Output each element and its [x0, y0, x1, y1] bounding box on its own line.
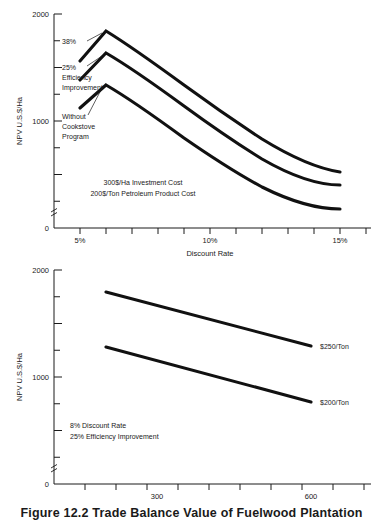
top-chart-y-axis-title: NPV U.S.$/Ha	[15, 96, 24, 145]
bottom-chart-y-ticks	[54, 270, 62, 457]
top-chart-label-without-line3: Program	[62, 133, 89, 141]
figure-caption: Figure 12.2 Trade Balance Value of Fuelw…	[20, 506, 362, 520]
bottom-chart: 2000 1000 0 300 600 $/Ha Investment Cost…	[0, 258, 383, 503]
bottom-chart-series-250	[106, 292, 311, 346]
bottom-chart-ytick-2000: 2000	[32, 266, 49, 275]
bottom-chart-note-line2: 25% Efficiency Improvement	[70, 433, 159, 441]
top-chart-ytick-1000: 1000	[32, 117, 49, 126]
top-chart-label-without-line2: Cookstove	[62, 123, 95, 130]
top-chart-series-38	[80, 31, 340, 172]
top-chart-x-ticks	[80, 228, 366, 234]
top-chart-ytick-0: 0	[45, 224, 49, 233]
top-chart-label-25-line2: Efficiency	[62, 74, 92, 82]
top-chart-ytick-2000: 2000	[32, 10, 49, 19]
top-chart: 2000 1000 0 5% 10% 15% Discount Rate NPV…	[0, 0, 383, 258]
bottom-chart-ytick-1000: 1000	[32, 373, 49, 382]
bottom-chart-note-line1: 8% Discount Rate	[70, 422, 126, 429]
bottom-chart-x-ticks	[85, 484, 364, 490]
top-chart-label-25-line3: Improvement	[62, 84, 103, 92]
bottom-chart-series-200	[106, 347, 311, 402]
bottom-chart-ytick-0: 0	[45, 480, 49, 489]
bottom-chart-y-axis-title: NPV U.S.$/Ha	[15, 352, 24, 401]
top-chart-leader-without	[88, 88, 102, 115]
bottom-chart-label-250: $250/Ton	[320, 343, 349, 350]
top-chart-label-without-line1: Without	[62, 113, 86, 120]
top-chart-xtick-10: 10%	[202, 236, 217, 245]
top-chart-label-25-line1: 25%	[62, 64, 76, 71]
top-chart-note-line1: 300$/Ha Investment Cost	[104, 179, 183, 186]
top-chart-label-38: 38%	[62, 38, 76, 45]
figure-container: 2000 1000 0 5% 10% 15% Discount Rate NPV…	[0, 0, 383, 520]
bottom-chart-xtick-300: 300	[151, 492, 164, 501]
top-chart-xtick-5: 5%	[75, 236, 86, 245]
top-chart-y-ticks	[54, 14, 62, 201]
bottom-chart-label-200: $200/Ton	[320, 399, 349, 406]
top-chart-note-line2: 200$/Ton Petroleum Product Cost	[90, 190, 195, 197]
top-chart-x-axis-title: Discount Rate	[186, 249, 233, 258]
bottom-chart-xtick-600: 600	[305, 492, 318, 501]
top-chart-series-25	[80, 53, 340, 185]
top-chart-xtick-15: 15%	[332, 236, 347, 245]
